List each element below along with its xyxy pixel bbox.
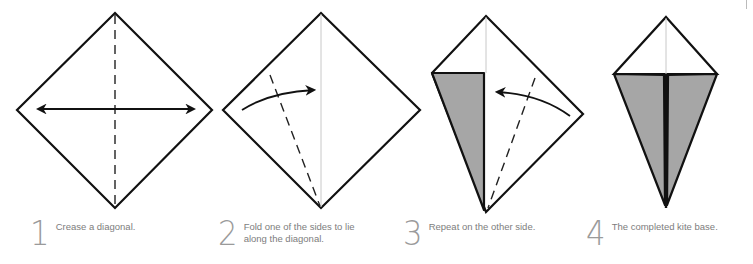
step-instruction: Crease a diagonal. [56, 218, 136, 233]
step-number: 4 [586, 218, 605, 248]
step-instruction: Repeat on the other side. [429, 218, 536, 233]
step-4-figure [614, 17, 717, 208]
step-number: 2 [218, 218, 237, 248]
step-number: 3 [403, 218, 422, 248]
step-1-figure [17, 13, 212, 208]
step-2-caption: 2 Fold one of the sides to lie along the… [218, 218, 355, 248]
step-instruction: Fold one of the sides to lie along the d… [244, 218, 355, 245]
step-instruction: The completed kite base. [612, 218, 718, 233]
step-1-caption: 1 Crease a diagonal. [30, 218, 135, 248]
step-4-caption: 4 The completed kite base. [586, 218, 718, 248]
page-edge-mark [746, 0, 747, 9]
folded-flap-icon [432, 73, 484, 210]
kite-base-icon [614, 74, 717, 208]
step-3-caption: 3 Repeat on the other side. [403, 218, 535, 248]
step-number: 1 [30, 218, 49, 248]
step-2-figure [223, 13, 420, 208]
step-3-figure [432, 16, 583, 212]
